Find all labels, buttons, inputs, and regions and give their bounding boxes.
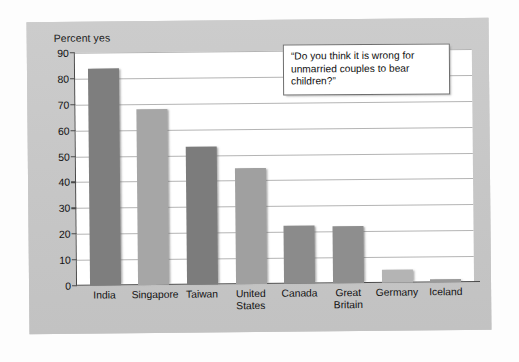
y-axis-tick-label: 60 (58, 124, 70, 136)
bar (284, 225, 316, 284)
y-axis-tick-label: 30 (59, 202, 71, 214)
bar-column (82, 52, 127, 285)
callout-text: “Do you think it is wrong for unmarried … (291, 50, 415, 87)
y-axis-tick-label: 70 (58, 99, 70, 111)
x-axis-category-label: Canada (278, 287, 322, 331)
x-axis-category-label: Singapore (132, 289, 176, 333)
bar-chart: Percent yes 0102030405060708090 IndiaSin… (27, 18, 492, 334)
bar-column (179, 51, 224, 284)
y-axis-tick-mark (71, 130, 76, 131)
y-axis-tick-mark (70, 78, 75, 79)
bar (332, 226, 364, 283)
bar (186, 146, 218, 285)
y-axis-tick-mark (71, 156, 76, 157)
y-axis-tick-label: 10 (59, 254, 71, 266)
y-axis-tick-mark (70, 104, 75, 105)
bar-column (130, 52, 175, 285)
x-axis-category-label: India (83, 289, 127, 333)
y-axis-tick-label: 80 (57, 73, 69, 85)
y-axis-tick-label: 20 (59, 228, 71, 240)
x-axis-category-label: Germany (375, 286, 419, 330)
y-axis-tick-mark (71, 207, 76, 208)
x-axis-category-label: United States (229, 288, 273, 332)
question-callout: “Do you think it is wrong for unmarried … (283, 43, 450, 95)
y-axis-tick-label: 0 (65, 280, 71, 292)
bar-column (227, 51, 272, 284)
y-axis-tick-mark (70, 52, 75, 53)
bar (381, 270, 412, 283)
bar (430, 279, 461, 282)
y-axis-tick-label: 40 (58, 176, 70, 188)
y-axis-tick-mark (72, 259, 77, 260)
x-axis-category-label: Iceland (424, 286, 468, 330)
bar (137, 109, 170, 285)
chart-scene: Percent yes 0102030405060708090 IndiaSin… (0, 0, 519, 362)
y-axis-tick-label: 50 (58, 150, 70, 162)
y-axis-tick-label: 90 (57, 47, 69, 59)
y-axis-tick-mark (72, 233, 77, 234)
bar (88, 68, 121, 286)
x-axis-labels: IndiaSingaporeTaiwanUnited StatesCanadaG… (76, 286, 474, 334)
y-axis-tick-mark (71, 182, 76, 183)
x-axis-category-label: Great Britain (327, 287, 371, 331)
y-axis-title: Percent yes (54, 31, 111, 44)
bar (235, 167, 267, 284)
y-axis-tick-mark (72, 285, 77, 286)
x-axis-category-label: Taiwan (180, 288, 224, 332)
